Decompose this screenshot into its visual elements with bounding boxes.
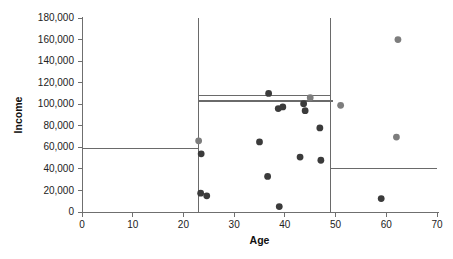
x-tick-label: 70 xyxy=(431,219,443,230)
data-point xyxy=(265,90,272,97)
data-point xyxy=(256,139,263,146)
x-tick-label: 50 xyxy=(330,219,342,230)
axis-lines xyxy=(82,17,439,212)
data-point xyxy=(378,195,385,202)
x-tick-label: 60 xyxy=(381,219,393,230)
series-gray-points xyxy=(195,36,401,144)
x-tick-label: 40 xyxy=(279,219,291,230)
x-tick-label: 0 xyxy=(79,219,85,230)
y-axis-title-group: Income xyxy=(12,96,24,133)
data-point xyxy=(395,36,402,43)
data-point xyxy=(317,157,324,164)
x-tick-labels: 010203040506070 xyxy=(79,219,443,230)
data-point xyxy=(393,134,400,141)
y-tick-label: 40,000 xyxy=(43,163,74,174)
y-tick-label: 140,000 xyxy=(38,55,75,66)
data-point xyxy=(307,94,314,101)
x-tick-label: 30 xyxy=(229,219,241,230)
y-tick-label: 60,000 xyxy=(43,141,74,152)
scatter-chart: Income 020,00040,00060,00080,000100,0001… xyxy=(0,0,453,259)
data-point xyxy=(197,190,204,197)
y-tick-label: 120,000 xyxy=(38,77,75,88)
y-tick-label: 0 xyxy=(68,206,74,217)
y-tick-label: 100,000 xyxy=(38,98,75,109)
series-dark-points xyxy=(197,90,384,210)
y-tick-label: 180,000 xyxy=(38,12,75,23)
data-point xyxy=(297,154,304,161)
x-tick-marks xyxy=(82,212,437,217)
data-point xyxy=(276,203,283,210)
y-tick-label: 80,000 xyxy=(43,120,74,131)
x-axis-title: Age xyxy=(250,234,270,246)
y-tick-label: 160,000 xyxy=(38,34,75,45)
data-point xyxy=(300,100,307,107)
data-point xyxy=(302,107,309,114)
y-tick-labels: 020,00040,00060,00080,000100,000120,0001… xyxy=(38,12,75,217)
chart-canvas: Income 020,00040,00060,00080,000100,0001… xyxy=(0,0,453,259)
data-points xyxy=(195,36,401,210)
data-point xyxy=(279,104,286,111)
data-point xyxy=(198,150,205,157)
y-tick-label: 20,000 xyxy=(43,185,74,196)
y-tick-marks xyxy=(78,18,82,212)
x-tick-label: 20 xyxy=(178,219,190,230)
split-lines xyxy=(82,18,437,212)
x-tick-label: 10 xyxy=(127,219,139,230)
data-point xyxy=(316,125,323,132)
data-point xyxy=(203,192,210,199)
y-axis-title: Income xyxy=(12,96,24,133)
data-point xyxy=(337,102,344,109)
data-point xyxy=(264,173,271,180)
data-point xyxy=(195,137,202,144)
